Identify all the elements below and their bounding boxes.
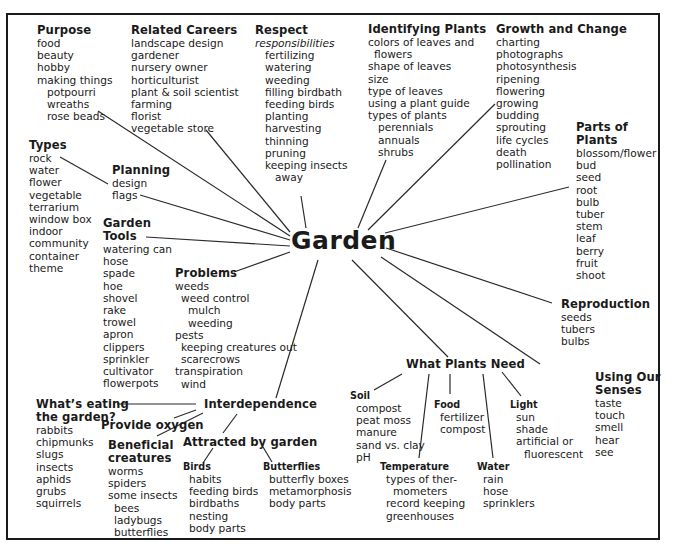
reproduction-item: seeds <box>561 311 650 323</box>
reproduction-item: tubers <box>561 323 650 335</box>
careers-item: florist <box>131 110 239 122</box>
temperature-heading: Temperature <box>380 461 465 473</box>
link-attracted <box>223 414 237 433</box>
growth-item: charting <box>496 36 627 48</box>
parts-item: berry <box>576 245 656 257</box>
types-heading: Types <box>29 139 92 152</box>
growth-item: photosynthesis <box>496 60 627 72</box>
birds-item: habits <box>183 473 258 485</box>
tools-item: clippers <box>103 341 172 353</box>
tools-item: hoe <box>103 280 172 292</box>
parts-item: bud <box>576 159 656 171</box>
beneficial-item: some insects <box>108 489 177 501</box>
link-identifying <box>358 160 386 228</box>
node-identifying-plants: Identifying Plants colors of leaves and … <box>368 23 486 158</box>
node-butterflies: Butterflies butterfly boxes metamorphosi… <box>263 461 352 510</box>
soil-item: peat moss <box>350 414 425 426</box>
purpose-item: hobby <box>37 61 112 73</box>
types-item: theme <box>29 262 92 274</box>
respect-item: feeding birds <box>255 98 347 110</box>
senses-item: hear <box>595 434 661 446</box>
temperature-item: record keeping <box>380 497 465 509</box>
reproduction-heading: Reproduction <box>561 298 650 311</box>
beneficial-heading-line2: creatures <box>108 452 177 465</box>
beneficial-item: spiders <box>108 477 177 489</box>
respect-item: planting <box>255 110 347 122</box>
temperature-item: mometers <box>380 485 465 497</box>
link-reproduction <box>386 248 552 303</box>
respect-item: watering <box>255 61 347 73</box>
problems-item: weed control <box>175 292 297 304</box>
birds-heading: Birds <box>183 461 258 473</box>
identifying-subitem: perennials <box>368 121 486 133</box>
senses-item: see <box>595 446 661 458</box>
types-item: community <box>29 237 92 249</box>
careers-item: farming <box>131 98 239 110</box>
birds-item: feeding birds <box>183 485 258 497</box>
senses-item: taste <box>595 397 661 409</box>
respect-item: harvesting <box>255 122 347 134</box>
node-what-plants-need: What Plants Need <box>406 358 525 371</box>
butterflies-heading: Butterflies <box>263 461 352 473</box>
problems-item: mulch <box>175 304 297 316</box>
food-item: fertilizer <box>434 411 486 423</box>
types-item: container <box>29 250 92 262</box>
tools-item: shovel <box>103 292 172 304</box>
node-garden-tools: Garden Tools watering can hose spade hoe… <box>103 217 172 389</box>
respect-subheading: responsibilities <box>255 37 347 49</box>
careers-item: landscape design <box>131 37 239 49</box>
identifying-subitem: annuals <box>368 134 486 146</box>
temperature-item: types of ther- <box>380 473 465 485</box>
temperature-item: greenhouses <box>380 510 465 522</box>
butterflies-item: metamorphosis <box>263 485 352 497</box>
growth-item: flowering <box>496 85 627 97</box>
birds-item: birdbaths <box>183 497 258 509</box>
problems-item: wind <box>175 378 297 390</box>
careers-item: gardener <box>131 49 239 61</box>
senses-item: smell <box>595 421 661 433</box>
beneficial-item: worms <box>108 465 177 477</box>
types-item: indoor <box>29 225 92 237</box>
parts-item: blossom/flower <box>576 147 656 159</box>
respect-heading: Respect <box>255 24 347 37</box>
node-problems: Problems weeds weed control mulch weedin… <box>175 267 297 390</box>
light-item: sun <box>510 411 583 423</box>
link-soil <box>374 374 402 390</box>
types-item: flower <box>29 176 92 188</box>
attracted-heading: Attracted by garden <box>183 436 317 449</box>
growth-item: photographs <box>496 48 627 60</box>
problems-item: scarecrows <box>175 353 297 365</box>
types-item: vegetable <box>29 189 92 201</box>
tools-item: apron <box>103 328 172 340</box>
parts-item: root <box>576 184 656 196</box>
node-birds: Birds habits feeding birds birdbaths nes… <box>183 461 258 534</box>
butterflies-item: body parts <box>263 497 352 509</box>
identifying-item: flowers <box>368 48 486 60</box>
link-butterflies <box>263 447 272 462</box>
link-parts <box>385 187 569 233</box>
growth-heading: Growth and Change <box>496 23 627 36</box>
beneficial-subitem: butterflies <box>108 526 177 538</box>
respect-item: keeping insects <box>255 159 347 171</box>
node-provide-oxygen: Provide oxygen <box>101 419 204 432</box>
oxygen-heading: Provide oxygen <box>101 419 204 432</box>
careers-item: plant & soil scientist <box>131 86 239 98</box>
node-light: Light sun shade artificial or fluorescen… <box>510 399 583 460</box>
parts-item: stem <box>576 220 656 232</box>
careers-heading: Related Careers <box>131 24 239 37</box>
water-item: rain <box>477 473 535 485</box>
parts-item: seed <box>576 171 656 183</box>
needs-heading: What Plants Need <box>406 358 525 371</box>
careers-item: horticulturist <box>131 74 239 86</box>
tools-item: hose <box>103 255 172 267</box>
tools-item: cultivator <box>103 365 172 377</box>
light-heading: Light <box>510 399 583 411</box>
identifying-heading: Identifying Plants <box>368 23 486 36</box>
planning-heading: Planning <box>112 164 170 177</box>
growth-item: growing <box>496 97 627 109</box>
butterflies-item: butterfly boxes <box>263 473 352 485</box>
birds-item: body parts <box>183 522 258 534</box>
types-item: rock <box>29 152 92 164</box>
water-heading: Water <box>477 461 535 473</box>
parts-item: tuber <box>576 208 656 220</box>
